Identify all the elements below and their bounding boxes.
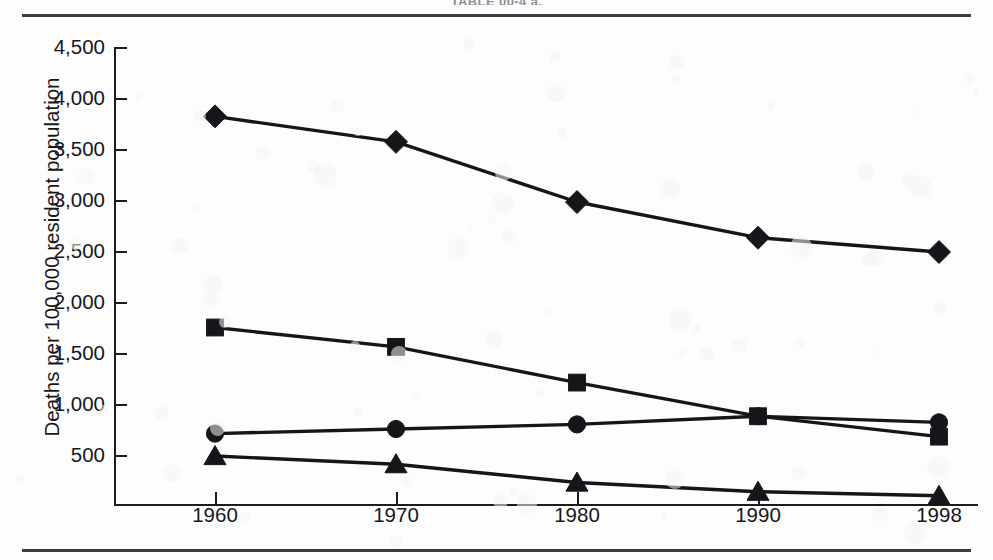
- circle-marker: [568, 416, 585, 433]
- square-marker: [207, 319, 224, 336]
- square-marker: [388, 338, 405, 355]
- figure-top-rule: [22, 14, 971, 17]
- circle-marker: [749, 408, 766, 425]
- y-tick-label: 3,000: [13, 188, 105, 212]
- figure-caption: TABLE 00-4 a.: [0, 0, 993, 5]
- x-tick-label: 1990: [698, 503, 818, 527]
- y-tick-label: 4,000: [13, 86, 105, 110]
- y-tick-label: 1,500: [13, 341, 105, 365]
- circle-marker: [387, 420, 404, 437]
- series-triangle: [204, 446, 950, 505]
- y-tick-label: 2,000: [13, 290, 105, 314]
- series-diamond-line: [215, 116, 939, 252]
- y-tick-label: 1,000: [13, 392, 105, 416]
- circle-marker: [206, 425, 223, 442]
- x-tick-label: 1970: [336, 503, 456, 527]
- series-layer: [114, 47, 978, 506]
- x-tick-label: 1998: [879, 503, 993, 527]
- diamond-marker: [566, 191, 589, 214]
- y-tick-label: 4,500: [13, 35, 105, 59]
- y-tick-label: 3,500: [13, 137, 105, 161]
- plot-area: 4,5004,0003,5003,0002,5002,0001,5001,000…: [114, 47, 978, 506]
- y-tick-label: 2,500: [13, 239, 105, 263]
- circle-marker: [930, 414, 947, 431]
- x-tick-label: 1960: [155, 503, 275, 527]
- square-marker: [569, 374, 586, 391]
- y-tick-label: 500: [13, 443, 105, 467]
- x-tick-label: 1980: [517, 503, 637, 527]
- diamond-marker: [204, 105, 227, 128]
- diamond-marker: [928, 241, 951, 264]
- diamond-marker: [385, 130, 408, 153]
- figure-root: TABLE 00-4 a. Deaths per 100,000 residen…: [0, 0, 993, 560]
- figure-bottom-rule: [22, 549, 971, 552]
- series-diamond: [204, 105, 951, 264]
- diamond-marker: [747, 226, 770, 249]
